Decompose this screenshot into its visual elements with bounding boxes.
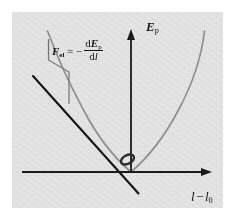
x-axis-label: l−l0 <box>191 190 213 203</box>
tangent-line <box>33 76 139 194</box>
figure-root: Ep l−l0 Fel=−dEpdl <box>0 0 235 218</box>
formula-denominator-l: l <box>95 50 98 62</box>
formula-denominator: dl <box>84 51 102 63</box>
y-axis-arrowhead <box>127 29 135 40</box>
y-axis-label-base: E <box>146 19 155 34</box>
x-axis-arrowhead <box>201 168 212 176</box>
x-axis-label-minus: − <box>196 189 203 204</box>
x-axis-label-subscript: 0 <box>209 196 213 205</box>
formula-fraction: dEpdl <box>84 38 102 63</box>
formula-numerator-sub: p <box>98 43 102 51</box>
origin-ellipse-marker <box>119 152 135 166</box>
formula-minus: − <box>76 45 82 57</box>
formula-symbol-subscript: el <box>59 51 64 59</box>
diagram-vector-layer <box>0 0 235 218</box>
formula-annotation: Fel=−dEpdl <box>52 38 103 63</box>
formula-equals: = <box>67 45 73 57</box>
x-axis-label-first: l <box>191 189 195 204</box>
y-axis-label: Ep <box>146 20 159 33</box>
y-axis-label-subscript: p <box>155 26 159 35</box>
